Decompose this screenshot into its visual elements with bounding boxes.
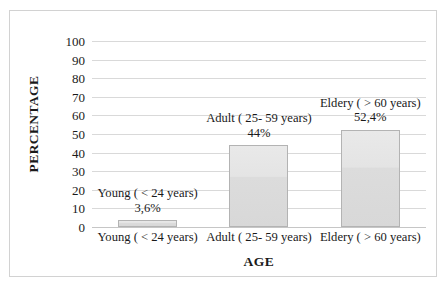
bar[interactable] [229,145,288,227]
chart-frame: PERCENTAGE 0102030405060708090100Young (… [9,10,437,277]
bar-data-label-category: Eldery ( > 60 years) [302,96,438,111]
bar-data-label-value: 52,4% [302,110,438,125]
bar[interactable] [341,130,400,227]
plot-area: 0102030405060708090100Young ( < 24 years… [92,41,426,227]
bar-data-label: Eldery ( > 60 years)52,4% [302,96,438,125]
y-tick-label: 40 [72,146,85,159]
y-tick-label: 70 [72,90,85,103]
x-tick-label: Eldery ( > 60 years) [315,231,426,251]
y-tick-label: 0 [79,221,86,234]
gridline: 80 [92,78,426,79]
y-tick-label: 50 [72,128,85,141]
gridline: 90 [92,60,426,61]
x-axis-title: AGE [92,254,426,270]
y-tick-label: 100 [66,35,86,48]
bar-data-label-category: Young ( < 24 years) [80,186,216,201]
bar-data-label-value: 44% [191,126,327,141]
y-tick-label: 90 [72,53,85,66]
bar-data-label-value: 3,6% [80,201,216,216]
gridline: 0 [92,227,426,228]
x-axis-tick-labels: Young ( < 24 years) Adult ( 25- 59 years… [92,231,426,251]
x-tick-label: Adult ( 25- 59 years) [203,231,314,251]
y-tick-label: 30 [72,165,85,178]
bar[interactable] [118,220,177,227]
y-tick-label: 80 [72,72,85,85]
bar-data-label: Young ( < 24 years)3,6% [80,186,216,215]
y-axis-title: PERCENTAGE [26,54,42,194]
gridline: 100 [92,41,426,42]
x-tick-label: Young ( < 24 years) [92,231,203,251]
bar-chart-figure: PERCENTAGE 0102030405060708090100Young (… [0,0,446,293]
y-tick-label: 60 [72,109,85,122]
